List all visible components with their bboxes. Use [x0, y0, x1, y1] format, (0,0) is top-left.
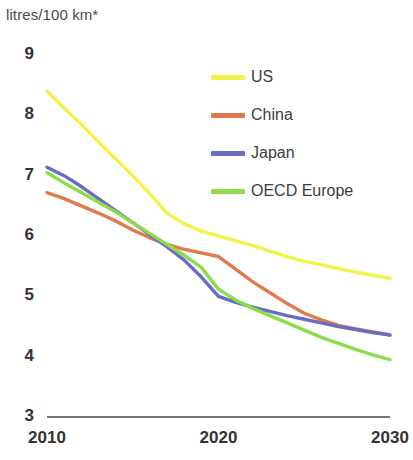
- y-tick-6: 6: [4, 225, 34, 245]
- legend-label: US: [251, 68, 273, 86]
- x-tick-2020: 2020: [174, 428, 264, 448]
- y-tick-7: 7: [4, 165, 34, 185]
- y-tick-4: 4: [4, 346, 34, 366]
- y-tick-8: 8: [4, 104, 34, 124]
- legend-swatch-icon: [211, 113, 245, 118]
- y-tick-9: 9: [4, 44, 34, 64]
- x-tick-2030: 2030: [345, 428, 413, 448]
- legend-label: China: [251, 106, 293, 124]
- x-tick-2010: 2010: [2, 428, 92, 448]
- legend-swatch-icon: [211, 151, 245, 156]
- series-line-china: [47, 193, 390, 335]
- y-tick-3: 3: [4, 406, 34, 426]
- legend-item-us[interactable]: US: [211, 58, 401, 96]
- legend-label: Japan: [251, 144, 295, 162]
- legend-label: OECD Europe: [251, 182, 353, 200]
- legend-swatch-icon: [211, 75, 245, 80]
- legend-item-china[interactable]: China: [211, 96, 401, 134]
- legend-swatch-icon: [211, 189, 245, 194]
- chart-legend: USChinaJapanOECD Europe: [211, 58, 401, 210]
- legend-item-japan[interactable]: Japan: [211, 134, 401, 172]
- legend-item-oecd-europe[interactable]: OECD Europe: [211, 172, 401, 210]
- y-tick-5: 5: [4, 285, 34, 305]
